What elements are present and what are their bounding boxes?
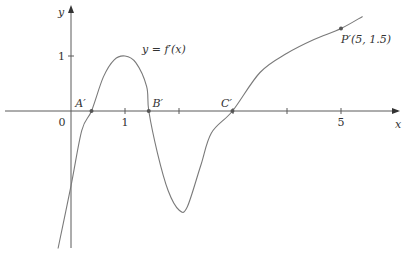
point-marker (147, 109, 151, 113)
point-label: A′ (74, 97, 86, 110)
y-axis-arrow-icon (68, 5, 74, 13)
point-marker (339, 27, 343, 31)
derivative-curve (58, 16, 363, 248)
x-tick-label: 1 (122, 116, 129, 129)
x-tick-label: 0 (59, 116, 66, 129)
x-tick-label: 5 (338, 116, 345, 129)
axis-ticks (68, 56, 341, 114)
y-tick-label: 1 (58, 50, 65, 63)
y-axis-label: y (57, 6, 65, 19)
x-axis-label: x (395, 118, 402, 131)
labeled-points: A′B′C′P′(5, 1.5) (74, 27, 391, 114)
x-axis-arrow-icon (392, 108, 400, 114)
derivative-graph: 0151 x y y = f′(x) A′B′C′P′(5, 1.5) (0, 0, 405, 261)
point-label: P′(5, 1.5) (340, 33, 391, 46)
point-label: B′ (151, 97, 163, 110)
tick-labels: 0151 (58, 50, 345, 129)
curve-label: y = f′(x) (141, 43, 186, 56)
point-label: C′ (221, 97, 232, 110)
point-marker (90, 109, 94, 113)
